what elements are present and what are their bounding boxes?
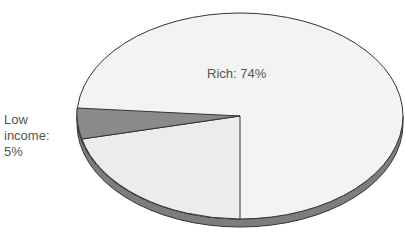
low-income-slice-label: Low income: 5% [4,112,64,160]
low-income-label-line-3: 5% [4,144,64,160]
rich-slice-label: Rich: 74% [207,66,266,82]
low-income-label-line-1: Low [4,112,64,128]
low-income-label-line-2: income: [4,128,64,144]
